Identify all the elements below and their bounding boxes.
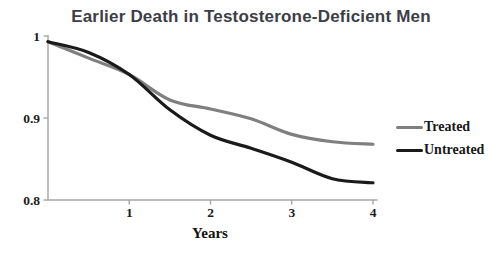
x-axis-title: Years: [130, 225, 290, 242]
legend: Treated Untreated: [396, 120, 484, 157]
chart-container: Earlier Death in Testosterone-Deficient …: [0, 0, 502, 258]
axes: [48, 35, 378, 200]
y-tick-label-1: 0.9: [23, 111, 40, 126]
x-tick-label-0: 1: [126, 205, 133, 220]
x-tick-label-1: 2: [207, 205, 214, 220]
treated-line-swatch: [396, 126, 423, 129]
legend-item-treated: Treated: [396, 120, 484, 134]
x-tick-label-3: 4: [370, 205, 377, 220]
y-tick-label-2: 0.8: [23, 193, 40, 208]
x-tick-label-2: 3: [288, 205, 295, 220]
legend-label-untreated: Untreated: [424, 143, 484, 157]
untreated-line-swatch: [396, 149, 423, 152]
legend-item-untreated: Untreated: [396, 143, 484, 157]
y-tick-label-0: 1: [33, 29, 40, 44]
legend-label-treated: Treated: [424, 120, 470, 134]
